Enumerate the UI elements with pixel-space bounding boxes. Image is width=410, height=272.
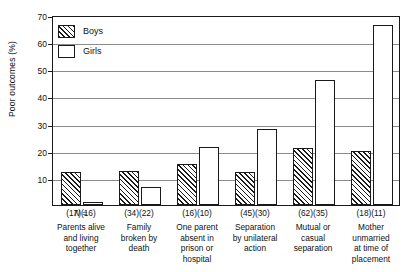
bar-boys xyxy=(293,148,313,205)
category-label: Separationby unilateralaction xyxy=(226,222,284,254)
category-label: Mutual orcasualseparation xyxy=(284,222,342,254)
bar-group xyxy=(285,17,343,205)
bar-boys xyxy=(61,172,81,205)
category-label-line: prison or xyxy=(168,243,226,254)
y-tick-label-40: 40 xyxy=(23,94,47,103)
category-label-line: by unilateral xyxy=(226,233,284,244)
category-label-line: Mother xyxy=(342,222,400,233)
x-axis-group-label: (34)(22)Familybroken bydeath xyxy=(110,208,168,254)
bar-boys xyxy=(177,164,197,205)
category-label: Motherunmarriedat time ofplacement xyxy=(342,222,400,264)
category-label-line: unmarried xyxy=(342,233,400,244)
sample-size-label: (45)(30) xyxy=(226,208,284,219)
category-label-line: broken by xyxy=(110,233,168,244)
bar-group xyxy=(343,17,401,205)
category-label-line: Family xyxy=(110,222,168,233)
category-label: Parents aliveand livingtogether xyxy=(52,222,110,254)
y-tick-label-30: 30 xyxy=(23,122,47,131)
category-label-line: and living xyxy=(52,233,110,244)
x-axis-group-label: (17)(16)Parents aliveand livingtogether xyxy=(52,208,110,254)
bar-girls xyxy=(373,25,393,206)
sample-size-label: (16)(10) xyxy=(168,208,226,219)
legend: Boys Girls xyxy=(58,21,168,61)
bar-girls xyxy=(315,80,335,205)
legend-label-girls: Girls xyxy=(83,46,102,56)
bar-group xyxy=(227,17,285,205)
legend-swatch-girls-icon xyxy=(58,45,75,58)
bar-boys xyxy=(235,172,255,205)
bar-boys xyxy=(119,171,139,205)
x-axis-group-label: (62)(35)Mutual orcasualseparation xyxy=(284,208,342,254)
x-axis-group-label: (16)(10)One parentabsent inprison orhosp… xyxy=(168,208,226,264)
y-tick-label-50: 50 xyxy=(23,67,47,76)
y-tick-label-20: 20 xyxy=(23,149,47,158)
category-label: One parentabsent inprison orhospital xyxy=(168,222,226,264)
category-label-line: casual xyxy=(284,233,342,244)
bar-chart-figure: Poor outcomes (%) 10203040506070 Boys Gi… xyxy=(0,0,410,272)
y-tick-label-70: 70 xyxy=(23,13,47,22)
bar-boys xyxy=(351,151,371,205)
bar-girls xyxy=(83,202,103,205)
bar-girls xyxy=(141,187,161,205)
legend-item-girls: Girls xyxy=(58,41,168,61)
category-label-line: absent in xyxy=(168,233,226,244)
sample-size-label: (62)(35) xyxy=(284,208,342,219)
category-label-line: separation xyxy=(284,243,342,254)
category-label-line: Parents alive xyxy=(52,222,110,233)
sample-size-label: (17)(16) xyxy=(52,208,110,219)
category-label-line: at time of xyxy=(342,243,400,254)
bar-girls xyxy=(199,147,219,205)
sample-size-label: (18)(11) xyxy=(342,208,400,219)
category-label-line: One parent xyxy=(168,222,226,233)
legend-label-boys: Boys xyxy=(83,26,103,36)
sample-size-label: (34)(22) xyxy=(110,208,168,219)
legend-item-boys: Boys xyxy=(58,21,168,41)
category-label-line: hospital xyxy=(168,254,226,265)
bar-girls xyxy=(257,129,277,205)
x-axis-labels: N = (17)(16)Parents aliveand livingtoget… xyxy=(52,208,400,272)
bar-group xyxy=(169,17,227,205)
category-label-line: placement xyxy=(342,254,400,265)
legend-swatch-boys-icon xyxy=(58,25,75,38)
y-tick-label-10: 10 xyxy=(23,176,47,185)
y-axis-title: Poor outcomes (%) xyxy=(7,19,17,139)
x-axis-group-label: (18)(11)Motherunmarriedat time ofplaceme… xyxy=(342,208,400,264)
category-label-line: together xyxy=(52,243,110,254)
x-axis-group-label: (45)(30)Separationby unilateralaction xyxy=(226,208,284,254)
y-tick-label-60: 60 xyxy=(23,40,47,49)
category-label: Familybroken bydeath xyxy=(110,222,168,254)
category-label-line: Mutual or xyxy=(284,222,342,233)
category-label-line: Separation xyxy=(226,222,284,233)
category-label-line: death xyxy=(110,243,168,254)
category-label-line: action xyxy=(226,243,284,254)
